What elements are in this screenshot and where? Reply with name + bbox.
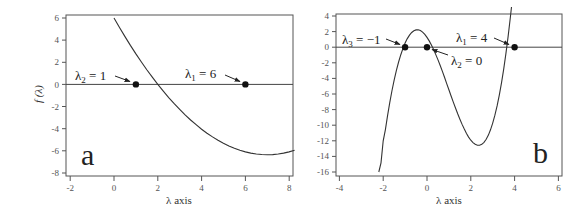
svg-text:-2: -2: [379, 183, 387, 193]
panel-b: 4 2 0 -2 -4 -6 -8 -10 -12 -14 -16 -4 -2 …: [317, 7, 562, 206]
svg-text:-4: -4: [52, 124, 60, 134]
svg-text:0: 0: [55, 80, 60, 90]
svg-text:-12: -12: [317, 136, 329, 146]
root-label-b-0: λ2 = 0: [451, 53, 482, 70]
root-marker-b-4: [511, 44, 517, 50]
y-axis-a: [62, 18, 66, 173]
x-axis-label-a: λ axis: [166, 194, 192, 206]
y-axis-b: [332, 16, 336, 172]
svg-text:6: 6: [556, 183, 561, 193]
root-label-b-4: λ1 = 4: [456, 30, 488, 47]
svg-text:2: 2: [325, 27, 330, 37]
svg-text:-6: -6: [52, 146, 60, 156]
curve-a: [114, 18, 295, 155]
svg-text:-4: -4: [336, 183, 344, 193]
root-label-a-1: λ2 = 1: [75, 68, 106, 85]
arrow-b-neg1: [386, 39, 400, 45]
svg-text:-2: -2: [322, 58, 330, 68]
x-tick-labels-b: -4 -2 0 2 4 6: [336, 183, 562, 193]
svg-text:-4: -4: [322, 73, 330, 83]
svg-text:4: 4: [325, 11, 330, 21]
svg-text:-16: -16: [317, 167, 329, 177]
svg-text:2: 2: [156, 183, 161, 193]
svg-text:4: 4: [199, 183, 204, 193]
root-marker-b-neg1: [402, 44, 408, 50]
svg-text:8: 8: [287, 183, 292, 193]
root-marker-b-0: [424, 44, 430, 50]
svg-text:0: 0: [112, 183, 117, 193]
root-marker-a-1: [133, 81, 139, 87]
svg-text:6: 6: [243, 183, 248, 193]
x-tick-labels-a: -2 0 2 4 6 8: [66, 183, 292, 193]
svg-text:-2: -2: [52, 102, 60, 112]
svg-text:2: 2: [469, 183, 474, 193]
panel-label-b: b: [533, 136, 548, 169]
figure: 6 4 2 0 -2 -4 -6 -8 -2 0 2 4 6 8 λ axis …: [0, 0, 588, 220]
svg-text:0: 0: [325, 42, 330, 52]
arrow-a-6: [225, 75, 240, 82]
panel-a: 6 4 2 0 -2 -4 -6 -8 -2 0 2 4 6 8 λ axis …: [32, 13, 295, 206]
x-axis-b: [339, 176, 558, 181]
svg-text:6: 6: [55, 13, 60, 23]
y-tick-labels-b: 4 2 0 -2 -4 -6 -8 -10 -12 -14 -16: [317, 11, 330, 177]
arrow-a-1: [115, 76, 130, 82]
x-axis-a: [70, 176, 289, 181]
arrow-b-4: [494, 38, 509, 45]
root-label-a-6: λ1 = 6: [185, 66, 217, 83]
root-label-b-neg1: λ3 = −1: [342, 32, 380, 49]
curve-b: [379, 7, 512, 172]
svg-text:-10: -10: [317, 120, 329, 130]
y-axis-label-a: f (λ): [32, 85, 45, 103]
root-marker-a-6: [242, 81, 248, 87]
svg-text:2: 2: [55, 57, 60, 67]
x-axis-label-b: λ axis: [436, 194, 462, 206]
svg-text:-14: -14: [317, 151, 329, 161]
plot-frame-a: [66, 15, 293, 176]
y-tick-labels-a: 6 4 2 0 -2 -4 -6 -8: [52, 13, 60, 178]
svg-text:-6: -6: [322, 89, 330, 99]
svg-text:-8: -8: [52, 168, 60, 178]
svg-text:0: 0: [425, 183, 430, 193]
svg-text:-2: -2: [66, 183, 74, 193]
svg-text:-8: -8: [322, 105, 330, 115]
svg-text:4: 4: [512, 183, 517, 193]
svg-text:4: 4: [55, 35, 60, 45]
panel-label-a: a: [81, 138, 94, 171]
